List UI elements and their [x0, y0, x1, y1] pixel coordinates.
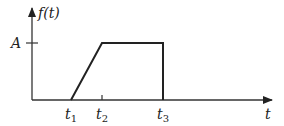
- trapezoid-pulse-diagram: f(t) A t1 t2 t3 t: [0, 0, 284, 126]
- y-axis-label: f(t): [37, 5, 60, 21]
- pulse-waveform: [71, 43, 163, 100]
- t2-label: t2: [96, 106, 108, 124]
- amplitude-label: A: [9, 35, 21, 51]
- t1-label: t1: [65, 106, 77, 124]
- x-axis-label: t: [265, 106, 271, 122]
- t3-label: t3: [157, 106, 169, 124]
